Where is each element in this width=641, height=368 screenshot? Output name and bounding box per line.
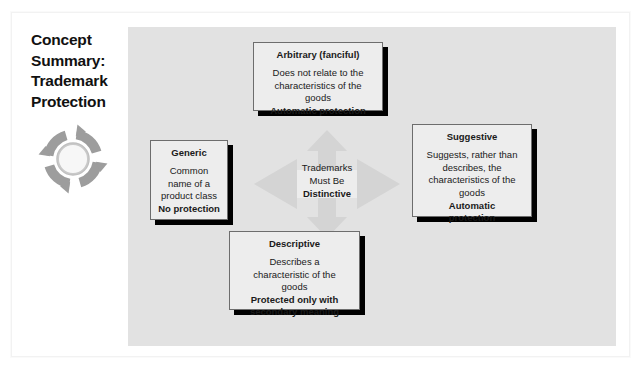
concept-box-body: Does not relate to the characteristics o… xyxy=(254,60,382,105)
concept-box-heading: Descriptive xyxy=(230,232,359,249)
concept-box-heading: Arbitrary (fanciful) xyxy=(254,43,382,60)
concept-box-generic[interactable]: Generic Common name of a product class N… xyxy=(150,140,228,220)
concept-box-body: Common name of a product class xyxy=(151,158,227,203)
concept-box-body: Describes a characteristic of the goods xyxy=(230,249,359,294)
concept-box-note: Protected only with secondary meaning xyxy=(230,294,359,324)
circular-arrows-cycle-icon xyxy=(34,120,112,198)
concept-box-heading: Suggestive xyxy=(413,125,531,142)
diagram-panel: Trademarks Must Be Distinctive Arbitrary… xyxy=(128,27,616,346)
concept-box-note: Automatic protection xyxy=(254,105,382,122)
center-line-1: Trademarks xyxy=(282,162,372,175)
slide-canvas: Concept Summary: Trademark Protection xyxy=(0,0,641,368)
title-column: Concept Summary: Trademark Protection xyxy=(31,30,127,330)
center-emphasis: Distinctive xyxy=(282,188,372,201)
concept-box-note: Automatic protection xyxy=(413,200,531,230)
concept-box-arbitrary[interactable]: Arbitrary (fanciful) Does not relate to … xyxy=(253,42,383,111)
concept-box-note: No protection xyxy=(151,203,227,220)
page-title: Concept Summary: Trademark Protection xyxy=(31,30,127,112)
concept-box-heading: Generic xyxy=(151,141,227,158)
concept-box-body: Suggests, rather than describes, the cha… xyxy=(413,142,531,199)
concept-box-suggestive[interactable]: Suggestive Suggests, rather than describ… xyxy=(412,124,532,217)
center-label: Trademarks Must Be Distinctive xyxy=(282,162,372,200)
concept-box-descriptive[interactable]: Descriptive Describes a characteristic o… xyxy=(229,231,360,310)
center-line-2: Must Be xyxy=(282,175,372,188)
